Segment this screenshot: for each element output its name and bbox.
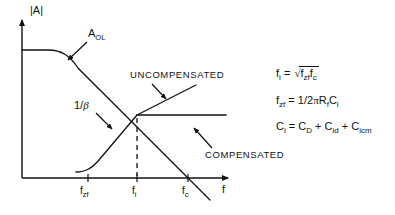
f-i-equation-lhs-sub: i	[279, 73, 281, 82]
f-zf-rhs-prefix: 1/2	[298, 94, 313, 106]
radicand-term-2-sub: c	[313, 73, 317, 82]
f-zf-rhs-term-1-base: R	[319, 94, 327, 106]
compensated-leader-arrow	[194, 128, 212, 148]
one-over-beta-numerator: 1/	[74, 99, 83, 111]
radical-group: √fzffc	[293, 66, 318, 79]
c-i-rhs-term-2-base: C	[325, 120, 333, 132]
tick-label-f-c-sub: c	[185, 190, 189, 199]
c-i-equation-lhs-sub: i	[284, 126, 286, 135]
c-i-rhs-term-2-sub: id	[333, 126, 339, 135]
f-zf-equation-operator: =	[288, 94, 294, 106]
f-zf-rhs-term-1-sub: f	[327, 100, 329, 109]
plot-canvas	[0, 0, 395, 215]
f-zf-rhs-term-2-sub: i	[337, 100, 339, 109]
uncompensated-label: UNCOMPENSATED	[130, 70, 224, 80]
c-i-equation: Ci = CD + Cid + Cicm	[276, 121, 372, 132]
c-i-rhs-op-2: +	[315, 120, 321, 132]
beta-symbol: β	[83, 99, 88, 111]
compensated-label: COMPENSATED	[205, 150, 284, 160]
uncompensated-leader-arrow	[152, 84, 166, 99]
c-i-rhs-term-1-sub: D	[306, 126, 312, 135]
a-ol-label: AOL	[88, 28, 105, 39]
c-i-equation-lhs-base: C	[276, 120, 284, 132]
tick-label-f-c: fc	[182, 186, 189, 196]
f-i-equation-operator: =	[284, 67, 290, 79]
radicand: fzffc	[299, 66, 318, 79]
tick-label-f-i: fi	[132, 186, 136, 196]
f-zf-rhs-term-2-base: C	[329, 94, 337, 106]
tick-label-f-zf-sub: zf	[83, 190, 89, 199]
f-zf-equation-lhs-sub: zf	[279, 100, 285, 109]
f-i-equation: fi = √fzffc	[276, 66, 319, 79]
x-axis-label: f	[222, 184, 225, 195]
uncompensated-curve	[137, 85, 196, 115]
tick-label-f-zf: fzf	[80, 186, 89, 196]
one-over-beta-leader-arrow	[96, 113, 112, 129]
f-zf-equation: fzf = 1/2πRfCi	[276, 95, 339, 106]
c-i-rhs-op-3: +	[342, 120, 348, 132]
c-i-equation-operator: =	[289, 120, 295, 132]
a-ol-label-sub: OL	[95, 33, 105, 42]
one-over-beta-label: 1/β	[74, 100, 89, 111]
radicand-term-1-sub: zf	[304, 73, 310, 82]
op-amp-stability-figure: |A| f AOL UNCOMPENSATED COMPENSATED 1/β …	[0, 0, 395, 215]
y-axis-label: |A|	[30, 5, 43, 16]
c-i-rhs-term-3-sub: icm	[359, 126, 371, 135]
a-ol-leader-arrow	[68, 42, 87, 60]
